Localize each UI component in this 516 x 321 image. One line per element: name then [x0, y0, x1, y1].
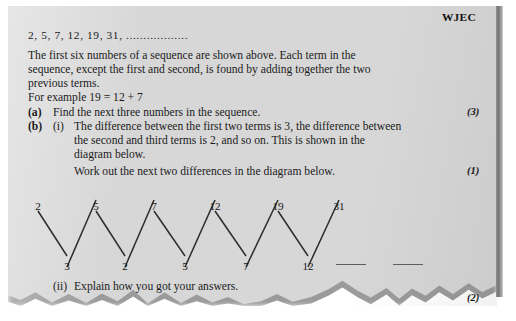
- question-b-ii-text: Explain how you got your answers.: [74, 280, 238, 294]
- zigzag-segment: [38, 211, 67, 256]
- question-b-i-line-1: The difference between the first two ter…: [74, 120, 401, 134]
- zigzag-bottom-number: 7: [243, 260, 249, 272]
- question-a-marks: (3): [467, 106, 479, 117]
- question-b-i-line-3: diagram below.: [74, 148, 145, 162]
- zigzag-top-number: 2: [35, 200, 41, 212]
- question-b-i-line-4: Work out the next two differences in the…: [74, 165, 335, 179]
- question-b-i-line-2: the second and third terms is 2, and so …: [74, 134, 365, 148]
- zigzag-top-number: 7: [151, 200, 157, 212]
- question-b-ii-label: (ii): [53, 280, 67, 294]
- question-a-text: Find the next three numbers in the seque…: [53, 106, 260, 120]
- question-b-ii-marks: (2): [467, 292, 479, 303]
- zigzag-segment: [96, 211, 125, 256]
- zigzag-bottom-number: 3: [64, 260, 70, 272]
- question-b-label: (b): [28, 120, 42, 134]
- zigzag-segment: [67, 200, 96, 267]
- number-sequence: 2, 5, 7, 12, 19, 31, ..................: [28, 29, 188, 43]
- zigzag-segment: [125, 200, 154, 267]
- zigzag-segment: [215, 211, 246, 256]
- zigzag-top-number: 19: [272, 200, 283, 212]
- intro-line-4: For example 19 = 12 + 7: [28, 91, 143, 105]
- zigzag-top-number: 31: [333, 200, 344, 212]
- question-b-i-marks: (1): [467, 165, 479, 176]
- answer-blank-line[interactable]: [393, 264, 423, 265]
- answer-blank-line[interactable]: [336, 264, 366, 265]
- zigzag-segment: [154, 211, 185, 256]
- question-b-i-label: (i): [53, 120, 64, 134]
- screenshot-root: WJEC 2, 5, 7, 12, 19, 31, ..............…: [0, 0, 516, 321]
- zigzag-bottom-number: 5: [182, 260, 188, 272]
- zigzag-bottom-number: 2: [122, 260, 128, 272]
- zigzag-bottom-number: 12: [302, 260, 313, 272]
- page-spine-shadow: [496, 6, 503, 297]
- zigzag-lines: [8, 184, 497, 272]
- zigzag-segment: [278, 211, 308, 256]
- question-a-label: (a): [28, 106, 42, 120]
- intro-line-2: sequence, except the first and second, i…: [28, 63, 371, 77]
- zigzag-top-number: 5: [93, 200, 99, 212]
- wjec-board-logo: WJEC: [442, 11, 476, 23]
- intro-line-1: The first six numbers of a sequence are …: [28, 49, 356, 63]
- exam-question-content: WJEC 2, 5, 7, 12, 19, 31, ..............…: [8, 6, 497, 306]
- zigzag-top-number: 12: [209, 200, 220, 212]
- difference-zigzag-diagram: 257121931325712: [8, 184, 497, 272]
- intro-line-3: previous terms.: [28, 77, 99, 91]
